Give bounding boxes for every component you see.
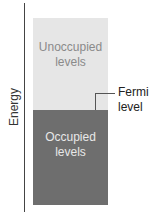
unoccupied-levels-band: Unoccupied levels bbox=[33, 18, 108, 110]
fermi-leader-horizontal bbox=[95, 93, 115, 94]
unoccupied-label: Unoccupied levels bbox=[33, 40, 108, 70]
occupied-levels-band: Occupied levels bbox=[33, 110, 108, 205]
energy-axis bbox=[24, 3, 25, 212]
occupied-label: Occupied levels bbox=[33, 130, 108, 160]
energy-axis-label: Energy bbox=[7, 87, 21, 127]
fermi-level-label: Fermi level bbox=[118, 85, 149, 115]
fermi-leader-vertical bbox=[95, 93, 96, 110]
